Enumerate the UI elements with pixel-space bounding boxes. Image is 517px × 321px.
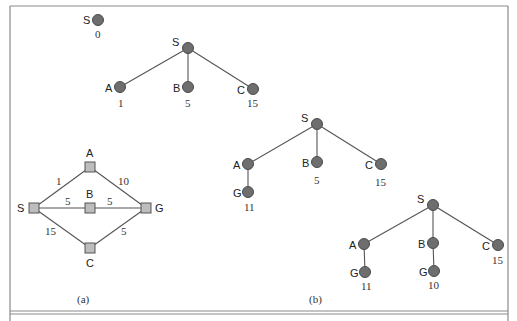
tree2-label-c: C: [365, 159, 373, 171]
tree3-edge-s-c: [433, 205, 498, 245]
tree1-cost-b: 5: [185, 97, 191, 109]
tree1-cost-a: 1: [118, 97, 124, 109]
weight-c-g: 5: [121, 225, 127, 237]
edge-s-a: [34, 167, 90, 208]
graph-node-g: [141, 203, 151, 213]
tree2-cost-g: 11: [244, 201, 255, 213]
weight-b-g: 5: [107, 195, 113, 207]
tree1-label-s: S: [172, 36, 179, 48]
tree1-node-a: [115, 82, 126, 93]
tree3-label-g-via-a: G: [350, 267, 359, 279]
tree1-node-b: [183, 82, 194, 93]
uniform-cost-search-figure: S A B C G 1 10 5 5 15 5 S 0 S A B C 1 5 …: [0, 0, 517, 321]
tree3-node-c: [493, 240, 504, 251]
graph-node-b: [85, 203, 95, 213]
tree2-cost-c: 15: [375, 176, 387, 188]
tree2-label-a: A: [233, 159, 241, 171]
weight-a-g: 10: [118, 175, 130, 187]
tree2-edge-s-c: [317, 124, 381, 164]
tree2-label-b: B: [302, 157, 309, 169]
tree0-node-s: [93, 15, 104, 26]
tree3-node-b: [428, 238, 439, 249]
tree2-node-g: [243, 187, 254, 198]
graph-node-a: [85, 162, 95, 172]
tree3-label-s: S: [417, 193, 424, 205]
tree2-node-a: [243, 159, 254, 170]
tree3-node-s: [428, 200, 439, 211]
tree1-label-c: C: [237, 84, 245, 96]
tree2-node-c: [376, 159, 387, 170]
graph-a: S A B C G 1 10 5 5 15 5: [17, 147, 164, 269]
tree3-label-c: C: [482, 240, 490, 252]
tree3-label-a: A: [349, 239, 357, 251]
tree2-node-b: [312, 157, 323, 168]
edge-c-g: [90, 208, 146, 248]
tree2-label-s: S: [301, 112, 308, 124]
tree3-cost-g-via-a: 11: [361, 280, 372, 292]
graph-label-a: A: [86, 147, 94, 159]
tree2-label-g: G: [233, 187, 242, 199]
graph-label-s: S: [17, 202, 24, 214]
graph-label-c: C: [86, 257, 94, 269]
search-tree-step-3: S A B C G G 15 11 10: [349, 193, 504, 292]
weight-s-c: 15: [45, 225, 57, 237]
search-tree-step-2: S A B C G 5 15 11: [233, 112, 387, 213]
tree3-label-b: B: [418, 238, 425, 250]
tree2-node-s: [312, 119, 323, 130]
search-tree-step-0: S 0: [83, 14, 104, 40]
tree3-node-g-via-b: [429, 266, 440, 277]
tree0-label-s: S: [83, 14, 90, 26]
tree1-label-b: B: [173, 82, 180, 94]
weight-s-b: 5: [65, 195, 71, 207]
graph-node-c: [85, 243, 95, 253]
graph-label-g: G: [155, 202, 164, 214]
graph-node-s: [29, 203, 39, 213]
tree3-cost-g-via-b: 10: [428, 279, 440, 291]
tree1-cost-c: 15: [247, 97, 259, 109]
weight-s-a: 1: [56, 175, 62, 187]
tree3-cost-c: 15: [492, 254, 504, 266]
search-tree-step-1: S A B C 1 5 15: [105, 36, 259, 109]
tree1-label-a: A: [105, 82, 113, 94]
tree3-node-a: [359, 239, 370, 250]
tree0-cost-s: 0: [95, 28, 101, 40]
tree1-node-c: [248, 84, 259, 95]
tree3-label-g-via-b: G: [419, 266, 428, 278]
tree1-edge-s-c: [188, 48, 253, 89]
tree3-node-g-via-a: [360, 267, 371, 278]
edge-s-c: [34, 208, 90, 248]
graph-label-b: B: [86, 188, 93, 200]
caption-a: (a): [77, 293, 90, 306]
caption-b: (b): [309, 293, 322, 306]
tree1-node-s: [183, 43, 194, 54]
edge-a-g: [90, 167, 146, 208]
tree2-cost-b: 5: [314, 174, 320, 186]
